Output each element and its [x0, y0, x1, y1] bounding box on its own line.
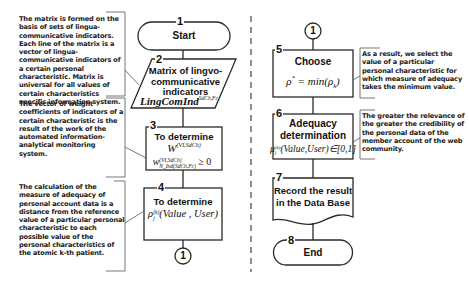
adequacy-determination-label: Adequacy determination [273, 118, 353, 142]
step-number-7: 7 [275, 172, 283, 183]
choose-min-formula: ρ* = min(ρk) [273, 74, 353, 89]
matrix-formula: LingComIndSdCh,Fc [129, 95, 229, 107]
note-matrix: The matrix is formed on the basis of set… [19, 15, 125, 106]
determine-weights-label: To determine [146, 131, 222, 142]
step-number-3: 3 [149, 120, 157, 131]
determine-adequacy-measure-label: To determine [144, 196, 222, 207]
choose-label: Choose [273, 56, 353, 67]
weight-vector-formula: W(VI,SdCh) [146, 142, 222, 154]
note-calculation: The calculation of the measure of adequa… [19, 183, 125, 258]
step-number-1: 1 [176, 16, 184, 27]
start-label: Start [140, 30, 228, 41]
step-number-8: 8 [287, 235, 295, 246]
weight-coefficient-formula: w(VI,SdCh)N_Ind(SdCh,Fc) ≥ 0 [139, 156, 225, 169]
end-label: End [273, 247, 353, 258]
record-result-label: Record the result in the Data Base [273, 185, 353, 209]
note-vector: The vector of weight coefficients of ind… [19, 100, 125, 158]
note-relevance-leader [353, 138, 360, 142]
matrix-label: Matrix of lingvo-communicative indicator… [148, 66, 223, 98]
note-matrix-leader [125, 70, 139, 85]
note-relevance: The greater the relevance of the greater… [362, 112, 466, 153]
step-number-2: 2 [155, 54, 163, 65]
off-page-connector-right-label: 1 [305, 25, 321, 36]
off-page-connector-left-label: 1 [175, 250, 191, 261]
step-number-5: 5 [275, 44, 283, 55]
note-result-leader [353, 76, 360, 80]
note-result: As a result, we select the value of a pa… [362, 50, 466, 91]
step-number-4: 4 [157, 182, 165, 193]
adequacy-membership-formula: μ(k)j(Value,User)∈[0,1] [268, 143, 358, 155]
adequacy-measure-formula: ρ(k)j(Value , User) [140, 208, 226, 221]
